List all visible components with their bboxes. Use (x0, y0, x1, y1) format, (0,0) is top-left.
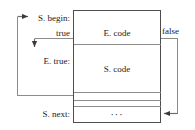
label-e-true: E. true: (8, 56, 70, 66)
block-label-e-code: E. code (76, 28, 158, 38)
label-true-branch: true (8, 28, 70, 38)
label-false-branch: false (162, 26, 194, 36)
block-label-s-code: S. code (76, 64, 158, 74)
label-s-next: S. next: (8, 109, 70, 119)
block-label-ellipsis: ··· (76, 110, 158, 120)
label-s-begin: S. begin: (8, 13, 70, 23)
diagram-canvas: S. begin: true E. true: S. next: E. code… (0, 0, 195, 130)
